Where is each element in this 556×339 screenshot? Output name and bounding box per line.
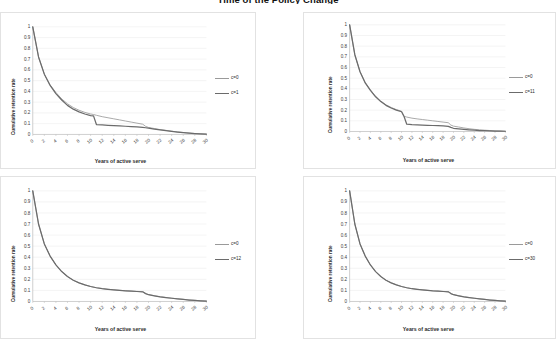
- x-tick-label: 12: [98, 137, 105, 144]
- x-tick-label: 24: [167, 137, 174, 144]
- y-tick-label: 1: [28, 24, 31, 29]
- x-tick-label: 0: [346, 305, 351, 311]
- y-tick-label: 1: [28, 188, 31, 193]
- y-tick-label: 0.9: [341, 33, 348, 38]
- legend-swatch-series-1: [215, 244, 229, 245]
- y-tick-label: 0: [28, 132, 31, 137]
- x-tick-label: 22: [459, 304, 466, 311]
- x-tick-label: 12: [98, 304, 105, 311]
- x-tick-label: 8: [388, 135, 393, 141]
- x-tick-label: 10: [86, 304, 93, 311]
- x-tick-label: 2: [41, 138, 46, 144]
- x-tick-label: 30: [202, 137, 209, 144]
- plot-area-top-left: 10.90.80.70.60.50.40.30.20.1002468101214…: [1, 13, 255, 168]
- legend-item[interactable]: c=1: [215, 90, 239, 96]
- y-tick-label: 0.6: [341, 233, 348, 238]
- y-axis-label-top-left: Cumulative retention rate: [11, 78, 16, 135]
- legend-item[interactable]: c=0: [509, 241, 535, 247]
- y-tick-label: 0.8: [341, 211, 348, 216]
- legend-swatch-series-2: [215, 259, 229, 260]
- x-tick-label: 14: [109, 137, 116, 144]
- legend-bottom-right: c=0 c=30: [509, 241, 535, 271]
- chart-panel-bottom-right: 10.90.80.70.60.50.40.30.20.1002468101214…: [303, 176, 556, 339]
- x-tick-label: 30: [501, 304, 508, 311]
- y-tick-label: 0.9: [24, 199, 31, 204]
- x-tick-label: 14: [418, 304, 425, 311]
- x-tick-label: 26: [179, 304, 186, 311]
- legend-top-right: c=0 c=11: [509, 74, 535, 104]
- legend-swatch-series-2: [509, 259, 523, 260]
- legend-item[interactable]: c=30: [509, 256, 535, 262]
- gridlines: [33, 27, 207, 135]
- legend-label: c=1: [231, 90, 239, 96]
- legend-swatch-series-2: [509, 92, 523, 93]
- x-tick-label: 22: [156, 137, 163, 144]
- y-tick-label: 0.7: [24, 222, 31, 227]
- legend-label: c=0: [525, 74, 533, 80]
- y-tick-label: 0.1: [24, 288, 31, 293]
- legend-swatch-series-1: [215, 78, 229, 79]
- legend-label: c=30: [525, 256, 535, 262]
- x-tick-label: 22: [459, 134, 466, 141]
- x-tick-label: 20: [449, 134, 456, 141]
- y-tick-label: 0.3: [24, 266, 31, 271]
- legend-item[interactable]: c=0: [509, 74, 535, 80]
- legend-label: c=0: [231, 75, 239, 81]
- x-tick-label: 20: [449, 304, 456, 311]
- legend-label: c=0: [231, 241, 239, 247]
- y-tick-label: 0.1: [341, 118, 348, 123]
- legend-item[interactable]: c=0: [215, 75, 239, 81]
- x-tick-label: 10: [397, 134, 404, 141]
- legend-label: c=11: [525, 89, 535, 95]
- y-tick-label: 0.5: [24, 78, 31, 83]
- x-tick-label: 4: [367, 135, 372, 141]
- y-tick-label: 0.6: [24, 233, 31, 238]
- x-tick-label: 24: [167, 304, 174, 311]
- x-tick-label: 6: [377, 305, 382, 311]
- chart-grid: 10.90.80.70.60.50.40.30.20.1002468101214…: [0, 8, 556, 339]
- x-tick-label: 14: [109, 304, 116, 311]
- y-tick-label: 0.8: [24, 46, 31, 51]
- x-axis-label-top-left: Years of active serve: [33, 158, 208, 164]
- legend-item[interactable]: c=0: [215, 241, 241, 247]
- x-tick-label: 20: [144, 137, 151, 144]
- y-tick-label: 0.9: [24, 35, 31, 40]
- x-tick-label: 6: [64, 138, 69, 144]
- y-tick-label: 0.2: [24, 277, 31, 282]
- legend-label: c=12: [231, 256, 241, 262]
- legend-top-left: c=0 c=1: [215, 75, 239, 105]
- x-tick-label: 0: [346, 135, 351, 141]
- x-tick-label: 18: [132, 304, 139, 311]
- legend-swatch-series-1: [509, 77, 523, 78]
- legend-item[interactable]: c=11: [509, 89, 535, 95]
- x-tick-label: 12: [407, 304, 414, 311]
- y-tick-label: 0.2: [24, 111, 31, 116]
- y-tick-label: 0.2: [341, 108, 348, 113]
- y-tick-label: 0.7: [341, 54, 348, 59]
- x-tick-label: 8: [76, 138, 81, 144]
- legend-item[interactable]: c=12: [215, 256, 241, 262]
- plot-area-bottom-right: 10.90.80.70.60.50.40.30.20.1002468101214…: [304, 177, 555, 338]
- y-tick-label: 0.4: [341, 86, 348, 91]
- x-tick-label: 18: [439, 304, 446, 311]
- y-axis-label-bottom-left: Cumulative retention rate: [11, 245, 16, 302]
- x-tick-label: 2: [357, 135, 362, 141]
- x-tick-label: 10: [397, 304, 404, 311]
- y-tick-label: 0.4: [24, 89, 31, 94]
- legend-swatch-series-1: [509, 244, 523, 245]
- x-tick-label: 0: [29, 305, 34, 311]
- y-tick-label: 0.3: [24, 100, 31, 105]
- y-tick-label: 0.7: [24, 57, 31, 62]
- y-tick-label: 0: [345, 299, 348, 304]
- y-axis-label-top-right: Cumulative retention rate: [328, 76, 333, 133]
- x-tick-label: 26: [480, 304, 487, 311]
- x-axis-label-bottom-left: Years of active serve: [33, 326, 208, 332]
- x-tick-label: 24: [470, 304, 477, 311]
- y-tick-label: 1: [345, 22, 348, 27]
- y-tick-label: 0: [28, 299, 31, 304]
- x-tick-label: 6: [64, 305, 69, 311]
- y-tick-label: 0.5: [341, 244, 348, 249]
- x-tick-label: 18: [132, 137, 139, 144]
- x-tick-label: 24: [470, 134, 477, 141]
- x-tick-label: 2: [41, 305, 46, 311]
